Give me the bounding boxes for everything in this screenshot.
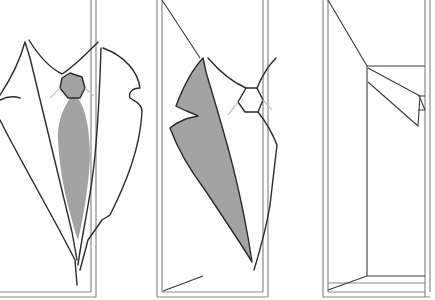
fold-diagonal-3: [328, 0, 367, 66]
folded-lapel: [170, 58, 252, 262]
knot-ghost: [228, 100, 272, 115]
left-lapel-inner: [29, 40, 98, 74]
fold-flap: [368, 68, 420, 126]
shirt-line: [257, 58, 276, 88]
panel-3-frame: [323, 0, 430, 297]
panel-3-empty-frame: [323, 0, 430, 297]
fold-diagonal: [162, 0, 200, 58]
tie-knot: [60, 73, 85, 98]
floor-line: [163, 276, 203, 291]
illustration-stage: [0, 0, 435, 300]
collar-curve: [208, 58, 246, 88]
panel-1-jacket-with-tie: [0, 0, 142, 297]
tie-knot-outline: [238, 88, 263, 112]
right-jacket: [254, 112, 277, 270]
illustration-svg: [0, 0, 435, 300]
panel-2-folded-lapel: [157, 0, 277, 297]
